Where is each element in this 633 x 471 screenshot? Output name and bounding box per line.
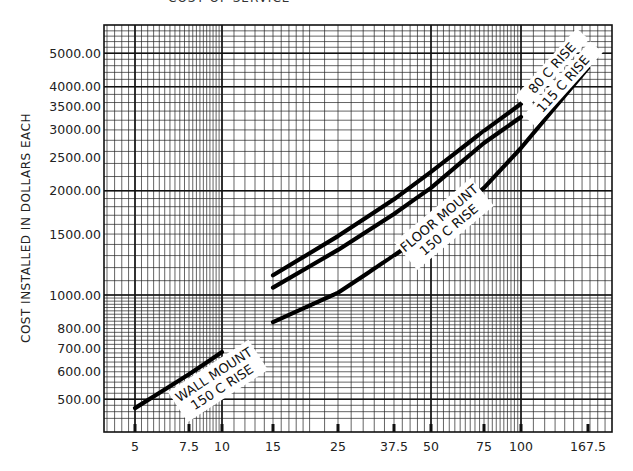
y-tick-label: 1000.00 bbox=[49, 288, 101, 303]
x-tick-mark bbox=[188, 424, 191, 432]
y-tick-label: 5000.00 bbox=[49, 46, 101, 61]
x-tick-label: 100 bbox=[509, 439, 533, 454]
x-tick-label: 167.5 bbox=[570, 439, 606, 454]
y-tick-label: 600.00 bbox=[57, 364, 101, 379]
x-tick-label: 7.5 bbox=[179, 439, 199, 454]
x-tick-mark bbox=[337, 424, 340, 432]
y-tick-label: 4000.00 bbox=[49, 79, 101, 94]
x-tick-mark bbox=[272, 424, 275, 432]
x-tick-label: 5 bbox=[131, 439, 139, 454]
x-axis-ticks: 57.510152537.55075100167.5 bbox=[131, 424, 606, 454]
x-tick-label: 25 bbox=[330, 439, 346, 454]
x-tick-mark bbox=[430, 424, 433, 432]
y-axis-title: COST INSTALLED IN DOLLARS EACH bbox=[19, 113, 33, 343]
y-tick-label: 500.00 bbox=[57, 392, 101, 407]
y-axis-ticks: 500.00600.00700.00800.001000.001500.0020… bbox=[49, 46, 101, 407]
x-tick-label: 10 bbox=[214, 439, 230, 454]
y-tick-label: 3500.00 bbox=[49, 99, 101, 114]
y-tick-label: 800.00 bbox=[57, 321, 101, 336]
y-tick-label: 3000.00 bbox=[49, 122, 101, 137]
x-tick-label: 50 bbox=[423, 439, 439, 454]
x-tick-label: 37.5 bbox=[380, 439, 408, 454]
x-tick-mark bbox=[483, 424, 486, 432]
x-tick-mark bbox=[393, 424, 396, 432]
label-floor-mount: FLOOR MOUNT150 C RISE bbox=[394, 178, 494, 270]
y-tick-label: 2000.00 bbox=[49, 183, 101, 198]
y-tick-label: 700.00 bbox=[57, 341, 101, 356]
y-tick-label: 1500.00 bbox=[49, 227, 101, 242]
x-tick-mark bbox=[221, 424, 224, 432]
chart: 57.510152537.55075100167.5 500.00600.007… bbox=[0, 0, 633, 471]
label-wall-mount: WALL MOUNT150 C RISE bbox=[168, 340, 268, 422]
x-tick-label: 15 bbox=[265, 439, 281, 454]
x-tick-mark bbox=[134, 424, 137, 432]
x-tick-label: 75 bbox=[476, 439, 492, 454]
x-tick-mark bbox=[520, 424, 523, 432]
y-tick-label: 2500.00 bbox=[49, 150, 101, 165]
x-tick-mark bbox=[587, 424, 590, 432]
